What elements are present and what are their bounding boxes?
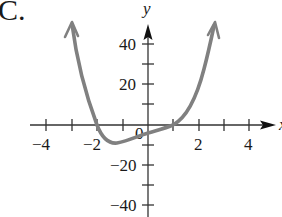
y-axis: 40 20 −20 −40 y 0 <box>110 0 154 217</box>
y-axis-label: y <box>141 0 151 18</box>
y-tick-label: −20 <box>110 156 137 175</box>
y-tick-label: 40 <box>119 35 136 54</box>
x-axis: −4 −2 2 4 x <box>30 115 282 154</box>
x-tick-label: 2 <box>194 135 203 154</box>
x-tick-label: −2 <box>83 135 101 154</box>
x-axis-label: x <box>278 115 282 134</box>
x-tick-label: −4 <box>32 135 51 154</box>
panel-label: C. <box>0 0 26 26</box>
y-tick-label: −40 <box>110 196 137 215</box>
y-tick-label: 20 <box>119 75 136 94</box>
polynomial-graph: C. −4 −2 2 4 x <box>0 0 282 217</box>
x-tick-label: 4 <box>244 135 253 154</box>
